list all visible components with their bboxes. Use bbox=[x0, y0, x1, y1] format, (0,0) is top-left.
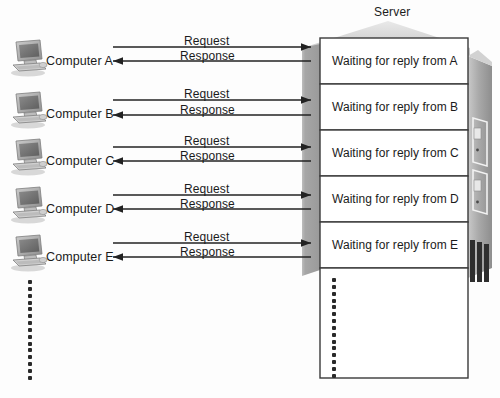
response-label-b: Response bbox=[180, 104, 235, 116]
client-label-c: Computer C bbox=[46, 155, 114, 168]
continuation-dot bbox=[28, 362, 32, 366]
computer-icon-d bbox=[11, 187, 47, 223]
continuation-dot bbox=[28, 355, 32, 359]
response-label-e: Response bbox=[180, 246, 235, 258]
continuation-dot bbox=[28, 376, 32, 380]
request-label-e: Request bbox=[184, 231, 229, 243]
server-queue-continuation-dots bbox=[332, 278, 336, 378]
request-label-c: Request bbox=[184, 135, 229, 147]
diagram-canvas: Server Computer A Computer B Computer C … bbox=[0, 0, 500, 398]
queue-slot-label-e: Waiting for reply from E bbox=[332, 239, 458, 251]
continuation-dot bbox=[28, 335, 32, 339]
response-label-a: Response bbox=[180, 50, 235, 62]
continuation-dot bbox=[28, 328, 32, 332]
request-label-b: Request bbox=[184, 88, 229, 100]
continuation-dot bbox=[332, 340, 336, 344]
continuation-dot bbox=[332, 367, 336, 371]
continuation-dot bbox=[332, 360, 336, 364]
queue-slot-label-b: Waiting for reply from B bbox=[332, 101, 458, 113]
continuation-dot bbox=[332, 278, 336, 282]
computer-icon-b bbox=[11, 92, 47, 128]
queue-slot-label-c: Waiting for reply from C bbox=[332, 147, 459, 159]
queue-slot-label-d: Waiting for reply from D bbox=[332, 193, 459, 205]
continuation-dot bbox=[332, 374, 336, 378]
continuation-dot bbox=[28, 314, 32, 318]
continuation-dot bbox=[28, 307, 32, 311]
continuation-dot bbox=[332, 353, 336, 357]
server-title: Server bbox=[374, 6, 411, 18]
client-label-d: Computer D bbox=[46, 203, 114, 216]
continuation-dot bbox=[28, 369, 32, 373]
computer-icon-a bbox=[11, 40, 47, 76]
continuation-dot bbox=[332, 326, 336, 330]
request-label-a: Request bbox=[184, 35, 229, 47]
continuation-dot bbox=[28, 348, 32, 352]
continuation-dot bbox=[332, 312, 336, 316]
continuation-dot bbox=[28, 287, 32, 291]
queue-slot-box-pending bbox=[320, 268, 468, 378]
continuation-dot bbox=[28, 280, 32, 284]
continuation-dot bbox=[28, 301, 32, 305]
continuation-dot bbox=[28, 294, 32, 298]
response-label-c: Response bbox=[180, 150, 235, 162]
request-label-d: Request bbox=[184, 183, 229, 195]
continuation-dot bbox=[332, 292, 336, 296]
computer-icon-c bbox=[11, 139, 47, 175]
continuation-dot bbox=[28, 342, 32, 346]
client-continuation-dots bbox=[28, 280, 32, 380]
response-label-d: Response bbox=[180, 198, 235, 210]
client-label-b: Computer B bbox=[46, 108, 114, 121]
client-label-e: Computer E bbox=[46, 251, 114, 264]
continuation-dot bbox=[332, 285, 336, 289]
client-label-a: Computer A bbox=[46, 55, 113, 68]
computer-icon-e bbox=[11, 235, 47, 271]
continuation-dot bbox=[332, 319, 336, 323]
continuation-dot bbox=[332, 299, 336, 303]
server-queue-boxes bbox=[320, 38, 468, 378]
continuation-dot bbox=[332, 333, 336, 337]
continuation-dot bbox=[332, 305, 336, 309]
queue-slot-label-a: Waiting for reply from A bbox=[332, 55, 457, 67]
continuation-dot bbox=[28, 321, 32, 325]
continuation-dot bbox=[332, 346, 336, 350]
